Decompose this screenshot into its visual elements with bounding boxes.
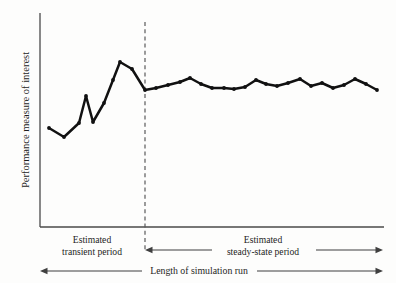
data-point: [232, 87, 236, 91]
data-point: [342, 83, 346, 87]
simulation-output-figure: Estimated transient period Estimated ste…: [0, 0, 396, 283]
data-point: [111, 78, 115, 82]
transient-period-label-line1: Estimated: [73, 234, 112, 245]
data-point: [243, 85, 247, 89]
data-point: [118, 60, 122, 64]
data-point: [353, 77, 357, 81]
data-point: [62, 135, 66, 139]
data-point: [375, 88, 379, 92]
data-point: [77, 121, 81, 125]
data-point: [84, 94, 88, 98]
transient-period-label-line2: transient period: [62, 246, 122, 257]
steady-state-period-label-line2: steady-state period: [227, 246, 299, 257]
y-axis-title: Performance measure of interest: [20, 52, 31, 188]
data-point: [364, 82, 368, 86]
data-point: [47, 126, 51, 130]
total-span-left-arrowhead: [40, 268, 48, 274]
total-span-right-arrowhead: [376, 268, 384, 274]
data-point: [178, 80, 182, 84]
performance-series-markers: [47, 60, 379, 139]
steady-state-period-label-line1: Estimated: [244, 234, 283, 245]
data-point: [331, 86, 335, 90]
data-point: [298, 77, 302, 81]
figure-canvas: Estimated transient period Estimated ste…: [0, 0, 396, 283]
data-point: [275, 84, 279, 88]
steady-state-right-arrowhead: [376, 247, 384, 253]
data-point: [91, 120, 95, 124]
data-point: [166, 83, 170, 87]
data-point: [102, 101, 106, 105]
data-point: [143, 88, 147, 92]
data-point: [130, 67, 134, 71]
data-point: [320, 81, 324, 85]
data-point: [222, 86, 226, 90]
data-point: [264, 82, 268, 86]
data-point: [199, 82, 203, 86]
data-point: [286, 81, 290, 85]
data-point: [254, 78, 258, 82]
total-span-label: Length of simulation run: [150, 265, 248, 276]
data-point: [210, 86, 214, 90]
data-point: [154, 86, 158, 90]
steady-state-left-arrowhead: [145, 247, 153, 253]
data-point: [309, 84, 313, 88]
data-point: [188, 76, 192, 80]
performance-series-line: [49, 62, 377, 137]
